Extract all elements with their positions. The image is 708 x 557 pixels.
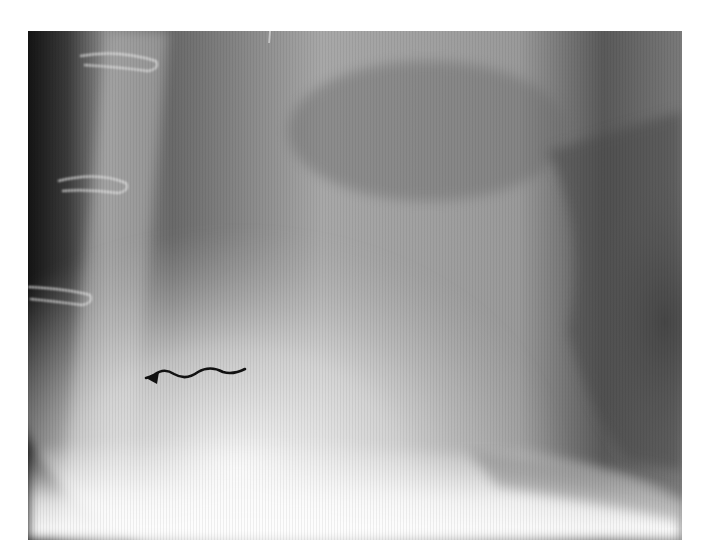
radiograph-canvas: [28, 31, 682, 540]
scan-texture: [28, 31, 682, 540]
radiograph-image: [28, 31, 682, 540]
